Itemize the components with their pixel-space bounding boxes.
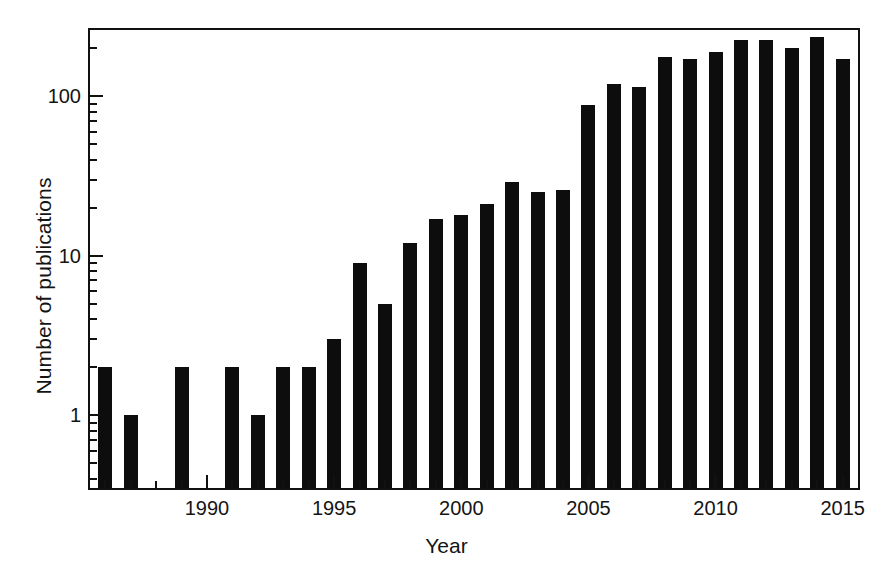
y-axis-minor-tick xyxy=(90,111,97,113)
x-axis-tick-label: 1990 xyxy=(185,497,230,520)
bar xyxy=(810,37,824,488)
y-axis-minor-tick xyxy=(90,478,97,480)
bar xyxy=(709,52,723,488)
bar xyxy=(225,367,239,488)
x-axis-minor-tick xyxy=(486,481,488,488)
bar xyxy=(505,182,519,488)
bar xyxy=(302,367,316,488)
bar xyxy=(251,415,265,488)
y-axis-minor-tick xyxy=(90,430,97,432)
bar xyxy=(607,84,621,488)
x-axis-minor-tick xyxy=(231,481,233,488)
x-axis-minor-tick xyxy=(155,481,157,488)
x-axis-minor-tick xyxy=(816,481,818,488)
y-axis-minor-tick xyxy=(90,422,97,424)
x-axis-minor-tick xyxy=(765,481,767,488)
x-axis-tick xyxy=(333,475,335,488)
x-axis-title: Year xyxy=(0,534,893,558)
x-axis-minor-tick xyxy=(384,481,386,488)
y-axis-tick xyxy=(90,255,103,257)
x-axis-tick xyxy=(587,475,589,488)
publications-per-year-chart: Number of publications 11010019901995200… xyxy=(0,0,893,575)
y-axis-minor-tick xyxy=(90,120,97,122)
y-axis-title: Number of publications xyxy=(32,136,56,436)
y-axis-tick-label: 1 xyxy=(70,404,81,427)
bar xyxy=(378,304,392,488)
y-axis-minor-tick xyxy=(90,462,97,464)
x-axis-minor-tick xyxy=(537,481,539,488)
bar xyxy=(276,367,290,488)
bar xyxy=(734,40,748,488)
bar xyxy=(429,219,443,488)
y-axis-minor-tick xyxy=(90,179,97,181)
y-axis-minor-tick xyxy=(90,366,97,368)
x-axis-minor-tick xyxy=(104,481,106,488)
y-axis-minor-tick xyxy=(90,279,97,281)
bar xyxy=(98,367,112,488)
plot-area: 110100199019952000200520102015 xyxy=(88,28,860,490)
bar xyxy=(403,243,417,488)
bar xyxy=(124,415,138,488)
x-axis-minor-tick xyxy=(613,481,615,488)
bar xyxy=(759,40,773,488)
bar xyxy=(836,59,850,488)
x-axis-minor-tick xyxy=(257,481,259,488)
x-axis-minor-tick xyxy=(181,481,183,488)
x-axis-minor-tick xyxy=(359,481,361,488)
x-axis-tick-label: 2005 xyxy=(566,497,611,520)
bar xyxy=(480,204,494,488)
x-axis-tick xyxy=(206,475,208,488)
x-axis-tick-label: 2000 xyxy=(439,497,484,520)
bar xyxy=(581,105,595,488)
x-axis-minor-tick xyxy=(308,481,310,488)
y-axis-minor-tick xyxy=(90,450,97,452)
y-axis-minor-tick xyxy=(90,439,97,441)
bar xyxy=(632,87,646,488)
y-axis-minor-tick xyxy=(90,103,97,105)
bar xyxy=(531,192,545,488)
x-axis-minor-tick xyxy=(638,481,640,488)
x-axis-tick-label: 2015 xyxy=(820,497,865,520)
x-axis-minor-tick xyxy=(562,481,564,488)
bar xyxy=(353,263,367,488)
y-axis-minor-tick xyxy=(90,262,97,264)
x-axis-minor-tick xyxy=(689,481,691,488)
y-axis-tick xyxy=(90,414,103,416)
y-axis-minor-tick xyxy=(90,131,97,133)
y-axis-tick xyxy=(90,95,103,97)
bar xyxy=(683,59,697,488)
y-axis-minor-tick xyxy=(90,303,97,305)
x-axis-minor-tick xyxy=(130,481,132,488)
bar-series xyxy=(90,30,858,488)
x-axis-tick-label: 1995 xyxy=(312,497,357,520)
y-axis-minor-tick xyxy=(90,338,97,340)
y-axis-tick-label: 100 xyxy=(48,85,81,108)
x-axis-tick xyxy=(460,475,462,488)
x-axis-tick xyxy=(714,475,716,488)
bar xyxy=(175,367,189,488)
y-axis-minor-tick xyxy=(90,159,97,161)
bar xyxy=(327,339,341,488)
bar xyxy=(556,190,570,488)
bar xyxy=(658,57,672,488)
x-axis-tick xyxy=(842,475,844,488)
x-axis-minor-tick xyxy=(664,481,666,488)
y-axis-minor-tick xyxy=(90,290,97,292)
bar xyxy=(454,215,468,488)
y-axis-minor-tick xyxy=(90,318,97,320)
x-axis-minor-tick xyxy=(435,481,437,488)
y-axis-minor-tick xyxy=(90,207,97,209)
bar xyxy=(785,48,799,488)
y-axis-minor-tick xyxy=(90,270,97,272)
x-axis-minor-tick xyxy=(409,481,411,488)
y-axis-tick-label: 10 xyxy=(59,244,81,267)
y-axis-minor-tick xyxy=(90,143,97,145)
x-axis-tick-label: 2010 xyxy=(693,497,738,520)
x-axis-minor-tick xyxy=(511,481,513,488)
y-axis-minor-tick xyxy=(90,47,97,49)
x-axis-minor-tick xyxy=(791,481,793,488)
x-axis-minor-tick xyxy=(282,481,284,488)
x-axis-minor-tick xyxy=(740,481,742,488)
